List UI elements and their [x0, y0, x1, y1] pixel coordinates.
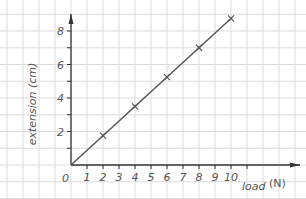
x-tick-label: 2	[100, 171, 107, 184]
data-series	[71, 15, 234, 165]
x-tick-label: 3	[116, 171, 123, 184]
x-tick-label: 10	[224, 171, 238, 184]
x-tick-label: 9	[212, 171, 219, 184]
x-tick-label: 8	[196, 171, 203, 184]
x-tick-label: 5	[148, 171, 155, 184]
y-axis-title: extension (cm)	[26, 63, 39, 146]
x-tick-label: 1	[84, 171, 91, 184]
grid-lines	[0, 0, 306, 199]
y-tick-label: 6	[57, 59, 64, 72]
y-tick-label: 8	[57, 25, 64, 38]
y-tick-label: 2	[57, 126, 64, 139]
y-axis-arrow-icon	[69, 14, 74, 24]
x-tick-label: 4	[132, 171, 139, 184]
x-tick-label: 6	[164, 171, 171, 184]
line-chart: 123456789102468 0 load (N) extension (cm…	[0, 0, 306, 199]
y-tick-label: 4	[57, 92, 64, 105]
x-tick-label: 7	[180, 171, 187, 184]
origin-label: 0	[62, 172, 69, 185]
axis-ticks: 123456789102468	[57, 25, 247, 184]
